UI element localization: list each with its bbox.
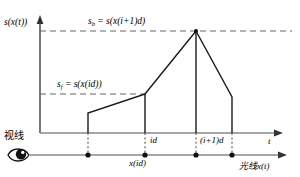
viewer-label: 视线 bbox=[4, 131, 24, 141]
tick-label-id: id bbox=[150, 136, 157, 145]
signal-curve bbox=[88, 31, 232, 133]
peak-marker bbox=[194, 29, 198, 33]
t-axis bbox=[40, 130, 283, 137]
level-label-sf: sf = s(x(id)) bbox=[57, 80, 102, 90]
eye-icon bbox=[8, 149, 29, 161]
figure-container: s(x(t)) sb = s(x(i+1)d) sf = s(x(id)) id… bbox=[0, 0, 300, 177]
t-axis-label: t bbox=[268, 137, 271, 146]
ray-tick-label-xid: x(id) bbox=[129, 159, 146, 168]
level-label-sb: sb = s(x(i+1)d) bbox=[88, 17, 145, 27]
ray-axis bbox=[30, 152, 287, 159]
diagram-canvas bbox=[0, 0, 300, 177]
tick-label-i-plus-1-d: (i+1)d bbox=[200, 136, 224, 145]
y-axis bbox=[37, 15, 44, 133]
y-axis-label: s(x(t)) bbox=[4, 18, 27, 28]
ray-axis-label: 光线x(t) bbox=[239, 162, 270, 171]
level-label-sf-expression: = s(x(id)) bbox=[63, 79, 102, 89]
level-label-sb-expression: = s(x(i+1)d) bbox=[95, 16, 145, 26]
